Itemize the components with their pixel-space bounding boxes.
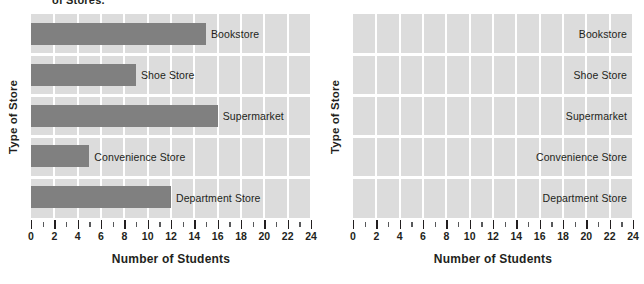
y-axis-title: Type of Store	[324, 14, 346, 220]
x-axis-tick-major	[54, 220, 55, 229]
plot-area-left: BookstoreShoe StoreSupermarketConvenienc…	[31, 14, 311, 218]
x-axis-tick-major	[78, 220, 79, 229]
x-axis-tick-minor	[206, 222, 207, 227]
bar[interactable]	[31, 23, 206, 45]
x-axis-tick-minor	[299, 222, 300, 227]
x-axis-tick-minor	[598, 222, 599, 227]
x-axis-tick-label: 12	[487, 230, 499, 242]
category-label: Shoe Store	[136, 55, 195, 96]
chart-row: Supermarket	[353, 96, 633, 137]
x-axis-tick-minor	[551, 222, 552, 227]
x-axis-tick-label: 0	[28, 230, 34, 242]
x-axis-tick-major	[171, 220, 172, 229]
x-axis-tick-major	[31, 220, 32, 229]
x-axis-tick-minor	[481, 222, 482, 227]
chart-row: Convenience Store	[353, 136, 633, 177]
x-axis-tick-major	[218, 220, 219, 229]
x-axis-tick-major	[311, 220, 312, 229]
x-axis-tick-major	[288, 220, 289, 229]
category-label: Department Store	[171, 177, 260, 218]
x-axis-tick-label: 8	[121, 230, 127, 242]
x-axis-tick-label: 0	[350, 230, 356, 242]
bar[interactable]	[31, 186, 171, 208]
x-axis-tick-major	[124, 220, 125, 229]
x-axis-tick-label: 10	[464, 230, 476, 242]
category-label: Bookstore	[579, 14, 627, 55]
category-label: Department Store	[543, 177, 627, 218]
x-axis-tick-label: 4	[75, 230, 81, 242]
x-axis-tick-label: 18	[235, 230, 247, 242]
x-axis-tick-label: 24	[305, 230, 317, 242]
x-axis-tick-major	[470, 220, 471, 229]
x-axis-tick-minor	[136, 222, 137, 227]
x-axis-tick-minor	[528, 222, 529, 227]
plot-area-right[interactable]: BookstoreShoe StoreSupermarketConvenienc…	[353, 14, 633, 218]
y-axis-title-text: Type of Store	[329, 80, 341, 154]
x-axis-tick-minor	[43, 222, 44, 227]
x-axis-tick-minor	[276, 222, 277, 227]
x-axis-tick-minor	[183, 222, 184, 227]
category-label: Supermarket	[566, 96, 627, 137]
bar[interactable]	[31, 105, 218, 127]
bar[interactable]	[31, 145, 89, 167]
x-axis-tick-label: 2	[51, 230, 57, 242]
category-label: Convenience Store	[536, 136, 627, 177]
x-axis-tick-minor	[505, 222, 506, 227]
x-axis-tick-major	[241, 220, 242, 229]
x-axis-tick-label: 6	[420, 230, 426, 242]
chart-row: Supermarket	[31, 96, 311, 137]
x-axis-title-right: Number of Students	[353, 252, 633, 266]
x-axis-title-left: Number of Students	[31, 252, 311, 266]
x-axis-tick-major	[194, 220, 195, 229]
x-axis-tick-major	[353, 220, 354, 229]
chart-row: Convenience Store	[31, 136, 311, 177]
x-axis-right: 024681012141618202224	[353, 220, 633, 246]
x-axis-tick-label: 22	[282, 230, 294, 242]
chart-row: Shoe Store	[353, 55, 633, 96]
y-axis-title: Type of Store	[2, 14, 24, 220]
x-axis-tick-label: 12	[165, 230, 177, 242]
x-axis-tick-label: 18	[557, 230, 569, 242]
x-axis-tick-label: 20	[258, 230, 270, 242]
x-axis-tick-minor	[253, 222, 254, 227]
x-axis-tick-label: 8	[443, 230, 449, 242]
chart-row: Bookstore	[353, 14, 633, 55]
x-axis-tick-minor	[365, 222, 366, 227]
completed-chart-panel: Type of Store BookstoreShoe StoreSuperma…	[0, 0, 322, 284]
chart-row: Bookstore	[31, 14, 311, 55]
x-axis-tick-major	[423, 220, 424, 229]
category-label: Bookstore	[206, 14, 259, 55]
x-axis-tick-label: 24	[627, 230, 639, 242]
x-axis-tick-label: 14	[188, 230, 200, 242]
x-axis-tick-minor	[66, 222, 67, 227]
chart-row: Department Store	[353, 177, 633, 218]
blank-chart-panel: Type of Store BookstoreShoe StoreSuperma…	[322, 0, 644, 284]
x-axis-tick-minor	[621, 222, 622, 227]
x-axis-tick-major	[264, 220, 265, 229]
x-axis-tick-major	[376, 220, 377, 229]
y-axis-title-text: Type of Store	[7, 80, 19, 154]
category-label: Shoe Store	[573, 55, 627, 96]
category-label: Convenience Store	[89, 136, 185, 177]
x-axis-tick-major	[493, 220, 494, 229]
worksheet: of Stores. Type of Store BookstoreShoe S…	[0, 0, 644, 284]
x-axis-tick-major	[101, 220, 102, 229]
x-axis-tick-minor	[159, 222, 160, 227]
bar[interactable]	[31, 64, 136, 86]
x-axis-tick-minor	[229, 222, 230, 227]
chart-row: Shoe Store	[31, 55, 311, 96]
x-axis-tick-major	[610, 220, 611, 229]
x-axis-tick-major	[446, 220, 447, 229]
x-axis-tick-major	[516, 220, 517, 229]
x-axis-tick-minor	[411, 222, 412, 227]
x-axis-tick-minor	[575, 222, 576, 227]
x-axis-tick-minor	[89, 222, 90, 227]
x-axis-tick-label: 16	[212, 230, 224, 242]
x-axis-tick-minor	[388, 222, 389, 227]
x-axis-tick-minor	[113, 222, 114, 227]
category-label: Supermarket	[218, 96, 284, 137]
x-axis-tick-label: 14	[510, 230, 522, 242]
x-axis-tick-major	[400, 220, 401, 229]
x-axis-tick-label: 6	[98, 230, 104, 242]
x-axis-tick-minor	[458, 222, 459, 227]
